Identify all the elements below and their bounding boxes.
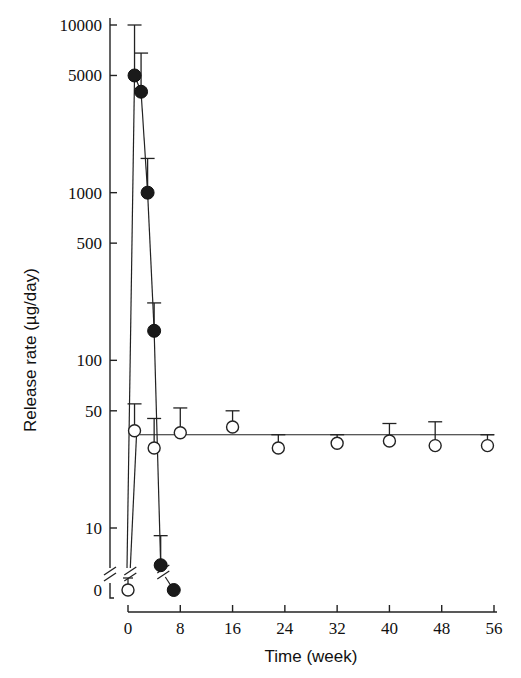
y-tick-label: 10000 — [60, 16, 103, 35]
filled-circle-point — [154, 559, 167, 572]
filled-circle-point — [128, 69, 141, 82]
y-tick-label: 10 — [85, 519, 102, 538]
x-tick-label: 56 — [486, 619, 503, 638]
x-tick-label: 16 — [224, 619, 241, 638]
y-tick-label: 50 — [85, 402, 102, 421]
x-tick-label: 24 — [276, 619, 294, 638]
open-circle-point — [481, 440, 493, 452]
x-tick-label: 48 — [433, 619, 450, 638]
y-tick-label: 0 — [94, 581, 103, 600]
open-circle-point — [227, 421, 239, 433]
y-tick-label: 1000 — [68, 184, 102, 203]
x-axis: 08162432404856 — [124, 605, 503, 638]
open-circle-point — [129, 425, 141, 437]
release-rate-chart: 010501005001000500010000 08162432404856 … — [0, 0, 521, 678]
series-layer — [122, 25, 494, 597]
x-tick-label: 32 — [329, 619, 346, 638]
y-axis: 010501005001000500010000 — [60, 16, 118, 600]
filled-circle-point — [167, 584, 180, 597]
filled-circle-point — [141, 186, 154, 199]
y-tick-label: 5000 — [68, 66, 102, 85]
open-circle-point — [122, 584, 134, 596]
y-tick-label: 500 — [77, 234, 103, 253]
open-circle-point — [383, 435, 395, 447]
y-axis-title: Release rate (µg/day) — [21, 268, 40, 432]
x-axis-title: Time (week) — [265, 647, 358, 666]
open-circle-point — [272, 442, 284, 454]
open-circle-point — [331, 437, 343, 449]
y-tick-label: 100 — [77, 351, 103, 370]
open-circle-point — [174, 427, 186, 439]
x-tick-label: 40 — [381, 619, 398, 638]
filled-circle-point — [148, 324, 161, 337]
x-tick-label: 0 — [124, 619, 133, 638]
x-tick-label: 8 — [176, 619, 185, 638]
filled-circle-point — [135, 85, 148, 98]
open-circle-point — [148, 442, 160, 454]
open-circle-point — [429, 440, 441, 452]
